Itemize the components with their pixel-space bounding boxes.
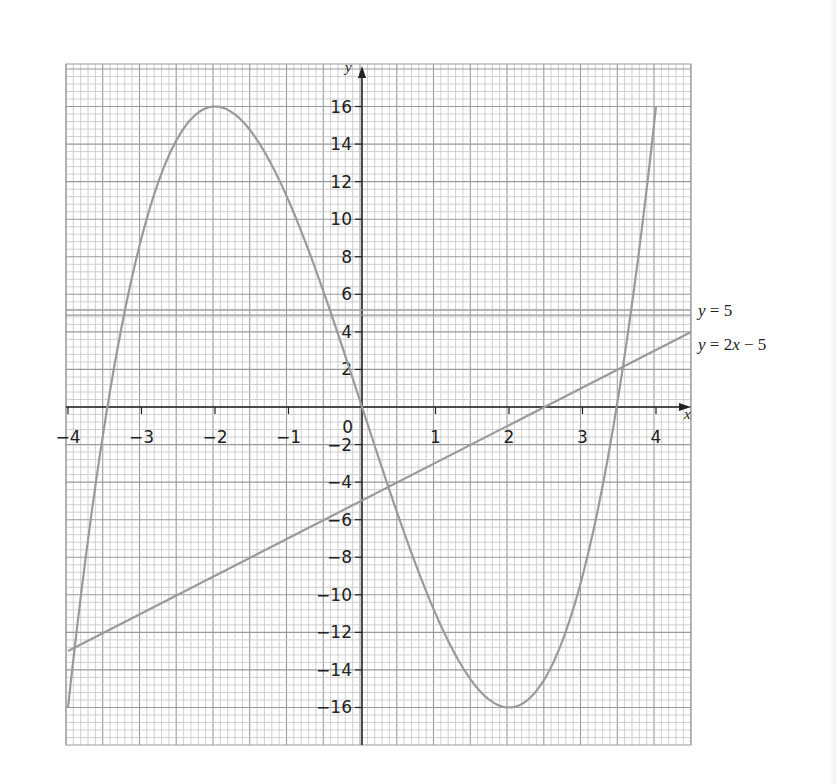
graph-paper-grid xyxy=(66,64,691,745)
page-edge xyxy=(828,0,836,784)
annotation-y-equals-2x-minus-5: y = 2x − 5 xyxy=(696,335,766,354)
x-tick-label: 2 xyxy=(504,427,515,447)
annotation-y-equals-5: y = 5 xyxy=(696,301,732,320)
x-tick-label: −2 xyxy=(202,427,227,447)
x-tick-label: 3 xyxy=(577,427,588,447)
y-tick-label: −4 xyxy=(327,472,352,492)
y-tick-label: 14 xyxy=(330,134,352,154)
y-tick-label: −14 xyxy=(316,660,352,680)
y-tick-label: 6 xyxy=(341,284,352,304)
y-tick-label: −10 xyxy=(316,585,352,605)
cubic-graph: −4−3−2−11234161412108642−2−4−6−8−10−12−1… xyxy=(0,0,836,784)
y-axis-arrow-icon xyxy=(358,66,366,78)
y-axis-label: y xyxy=(343,59,352,75)
y-tick-label: −2 xyxy=(327,435,352,455)
y-tick-label: −16 xyxy=(316,697,352,717)
line-annotations: y = 5 y = 2x − 5 x y xyxy=(343,59,766,422)
y-tick-label: 10 xyxy=(330,209,352,229)
origin-label: 0 xyxy=(342,417,353,437)
y-tick-label: −12 xyxy=(316,622,352,642)
x-tick-label: 4 xyxy=(651,427,662,447)
y-tick-label: −8 xyxy=(327,547,352,567)
y-tick-label: 8 xyxy=(341,247,352,267)
y-tick-label: 4 xyxy=(341,322,352,342)
x-tick-label: 1 xyxy=(430,427,441,447)
y-tick-label: 16 xyxy=(330,97,352,117)
y-tick-label: 12 xyxy=(330,172,352,192)
x-tick-label: −3 xyxy=(129,427,154,447)
axes xyxy=(66,66,691,745)
x-tick-label: −4 xyxy=(55,427,80,447)
x-axis-label: x xyxy=(683,406,691,422)
x-tick-label: −1 xyxy=(276,427,301,447)
